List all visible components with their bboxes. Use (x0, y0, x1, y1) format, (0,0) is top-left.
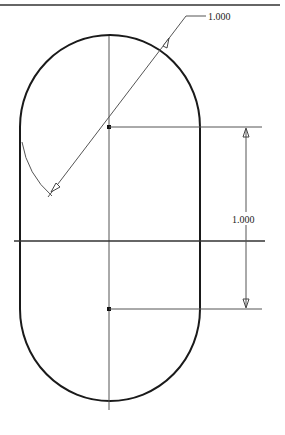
radius-arc-extension (22, 142, 52, 196)
center-distance-label[interactable]: 1.000 (232, 214, 255, 225)
radius-label[interactable]: 1.000 (208, 11, 231, 22)
radius-arrow-bottom-icon (51, 183, 60, 192)
slot-outline[interactable] (20, 35, 200, 401)
radius-arrow-top-icon (163, 38, 169, 48)
sketch-canvas: 1.000 1.000 (0, 0, 285, 435)
